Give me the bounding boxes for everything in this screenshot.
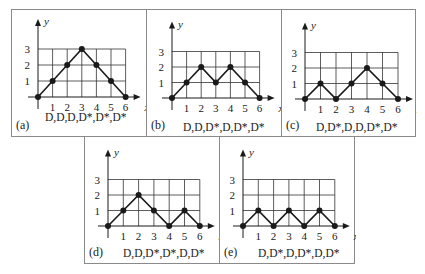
svg-text:4: 4 [364,103,370,115]
svg-text:3: 3 [292,47,298,59]
svg-text:2: 2 [198,102,204,114]
svg-text:1: 1 [230,205,236,217]
svg-text:y: y [177,18,183,30]
lattice-path-chart-c: yx123456123 [282,10,417,138]
svg-text:x: x [353,230,356,242]
svg-text:4: 4 [166,230,172,242]
svg-text:6: 6 [332,230,338,242]
svg-text:1: 1 [25,75,31,87]
svg-text:y: y [248,146,254,158]
sequence-caption: D,D,D,D*,D*,D* [45,111,126,123]
svg-text:2: 2 [230,189,236,201]
svg-text:2: 2 [136,230,142,242]
panel-b: yx123456123 (b) D,D,D*,D,D*,D* [146,9,282,137]
lattice-path-chart-d: yx123456123 [85,137,221,265]
svg-text:4: 4 [228,102,234,114]
panel-c: yx123456123 (c) D,D*,D,D,D*,D* [281,9,416,137]
panel-label: (b) [151,118,165,133]
svg-text:2: 2 [271,230,277,242]
svg-text:y: y [43,15,49,27]
svg-text:y: y [310,19,316,31]
panel-label: (d) [89,245,103,260]
sequence-caption: D,D*,D,D*,D,D* [258,247,339,259]
svg-text:5: 5 [182,230,188,242]
lattice-path-chart-e: yx123456123 [220,137,356,265]
svg-text:6: 6 [197,230,203,242]
panel-d: yx123456123 (d) D,D,D*,D*,D,D* [84,136,220,264]
svg-text:5: 5 [380,103,386,115]
svg-text:3: 3 [95,174,101,186]
svg-text:5: 5 [242,102,248,114]
svg-text:3: 3 [213,102,219,114]
svg-text:3: 3 [286,230,292,242]
svg-text:2: 2 [95,189,101,201]
svg-text:1: 1 [256,230,261,242]
svg-text:2: 2 [292,62,298,74]
svg-text:6: 6 [257,102,263,114]
svg-text:2: 2 [333,103,339,115]
svg-text:y: y [113,146,119,158]
lattice-path-chart-b: yx123456123 [147,10,283,138]
svg-text:3: 3 [151,230,157,242]
svg-text:2: 2 [25,59,31,71]
panel-label: (a) [16,118,29,133]
svg-text:x: x [416,103,417,115]
svg-text:1: 1 [318,103,324,115]
svg-text:1: 1 [159,77,165,89]
svg-text:1: 1 [184,102,190,114]
svg-text:1: 1 [121,230,127,242]
panel-a: yx123456123 (a) D,D,D,D*,D*,D* [11,9,147,137]
svg-text:3: 3 [230,174,236,186]
sequence-caption: D,D,D*,D*,D,D* [123,247,204,259]
svg-text:3: 3 [25,43,31,55]
svg-text:6: 6 [395,103,401,115]
sequence-caption: D,D*,D,D,D*,D* [316,121,397,133]
svg-text:3: 3 [159,46,165,58]
sequence-caption: D,D,D*,D,D*,D* [183,121,264,133]
svg-text:4: 4 [301,230,307,242]
svg-text:5: 5 [317,230,323,242]
panel-label: (c) [286,118,299,133]
svg-text:1: 1 [292,78,298,90]
svg-text:3: 3 [349,103,355,115]
panel-e: yx123456123 (e) D,D*,D,D*,D,D* [219,136,355,264]
panel-label: (e) [224,245,237,260]
svg-text:2: 2 [159,61,165,73]
svg-text:1: 1 [95,205,101,217]
